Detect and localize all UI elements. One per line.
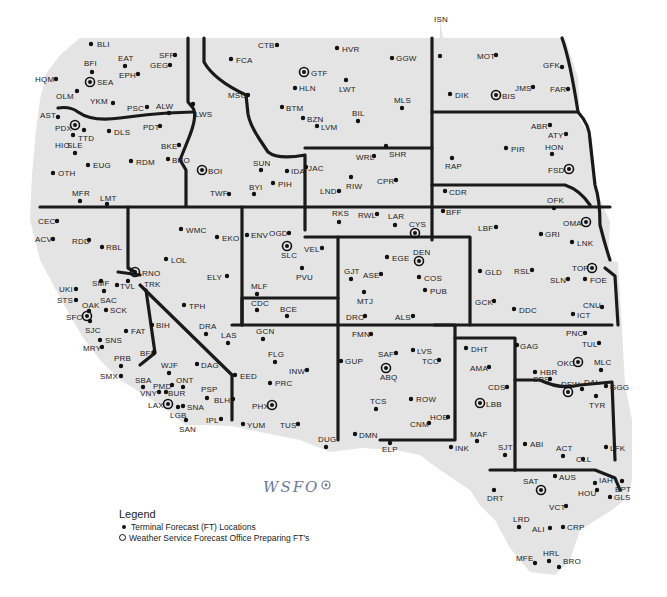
station-label: HVR bbox=[342, 45, 360, 54]
station-dot-icon bbox=[89, 42, 93, 46]
station-label: CYS bbox=[409, 220, 426, 229]
station-label: BNO bbox=[172, 156, 190, 165]
station-label: BUR bbox=[168, 389, 186, 398]
station-dot-icon bbox=[320, 246, 324, 250]
station-dot-icon bbox=[126, 279, 130, 283]
station-label: PUB bbox=[430, 287, 447, 296]
station-dot-icon bbox=[119, 364, 123, 368]
station-label: OTH bbox=[58, 169, 76, 178]
station-label: SBA bbox=[135, 376, 152, 385]
station-label: TPH bbox=[189, 302, 206, 311]
station-label: WMC bbox=[186, 226, 207, 235]
station-label: GFK bbox=[543, 61, 561, 70]
station-label: DRO bbox=[346, 313, 364, 322]
station-label: SJT bbox=[498, 443, 513, 452]
station-label: DEN bbox=[413, 248, 431, 257]
station-dot-icon bbox=[100, 245, 104, 249]
station-dot-icon bbox=[620, 479, 624, 483]
station-label: OLM bbox=[56, 92, 74, 101]
station-label: ABR bbox=[531, 122, 548, 131]
station-label: TUL bbox=[582, 340, 598, 349]
station-dot-icon bbox=[494, 93, 498, 97]
station-label: GUP bbox=[345, 357, 363, 366]
station-label: PSP bbox=[201, 385, 218, 394]
station-label: BRO bbox=[563, 557, 581, 566]
station-dot-icon bbox=[166, 402, 170, 406]
station-label: ACV bbox=[35, 235, 53, 244]
station-label: DUG bbox=[318, 435, 336, 444]
station-label: MSO bbox=[228, 91, 247, 100]
station-label: BFI bbox=[84, 59, 97, 68]
station-label: CNU bbox=[583, 301, 601, 310]
station-dot-icon bbox=[51, 171, 55, 175]
station-label: GAG bbox=[520, 342, 538, 351]
station-label: LBF bbox=[478, 224, 493, 233]
station-label: WJF bbox=[161, 361, 178, 370]
station-label: IDA bbox=[291, 167, 305, 176]
station-dot-icon bbox=[475, 439, 479, 443]
station-label: HON bbox=[545, 143, 563, 152]
station-label: ALI bbox=[532, 525, 545, 534]
station-label: GGW bbox=[396, 54, 417, 63]
station-label: CNM bbox=[410, 420, 429, 429]
station-dot-icon bbox=[225, 274, 229, 278]
station-dot-icon bbox=[300, 266, 304, 270]
station-dot-icon bbox=[285, 244, 289, 248]
station-label: RKS bbox=[332, 209, 349, 218]
station-label: SNS bbox=[105, 336, 122, 345]
station-mot: MOT bbox=[477, 52, 498, 61]
station-label: OKC bbox=[557, 359, 575, 368]
station-dot-icon bbox=[564, 132, 568, 136]
station-label: LVM bbox=[321, 123, 338, 132]
station-dro: DRO bbox=[346, 313, 367, 322]
station-dot-icon bbox=[417, 275, 421, 279]
station-label: CTB bbox=[258, 41, 275, 50]
station-dot-icon bbox=[449, 445, 453, 449]
station-pdt: PDT bbox=[143, 123, 162, 132]
station-dot-icon bbox=[145, 105, 149, 109]
station-label: UKI bbox=[59, 285, 73, 294]
station-label: BLH bbox=[214, 396, 230, 405]
station-label: LGB bbox=[170, 411, 187, 420]
station-dot-icon bbox=[315, 124, 319, 128]
station-rdd: RDD bbox=[72, 237, 91, 246]
station-label: ELY bbox=[207, 273, 223, 282]
station-label: WRL bbox=[356, 153, 375, 162]
station-dot-icon bbox=[517, 525, 521, 529]
station-dot-icon bbox=[423, 288, 427, 292]
station-label: RSL bbox=[514, 267, 531, 276]
station-dot-icon bbox=[150, 323, 154, 327]
station-mry: MRY bbox=[83, 344, 104, 353]
station-dot-icon bbox=[478, 269, 482, 273]
station-dot-icon bbox=[123, 64, 127, 68]
station-dot-icon bbox=[385, 255, 389, 259]
station-dot-icon bbox=[164, 257, 168, 261]
station-label: FLG bbox=[268, 350, 284, 359]
station-label: ISN bbox=[434, 15, 448, 24]
station-label: BCE bbox=[280, 305, 297, 314]
station-dot-icon bbox=[215, 235, 219, 239]
station-dot-icon bbox=[590, 266, 594, 270]
station-dot-icon bbox=[552, 206, 556, 210]
station-label: RDM bbox=[136, 158, 155, 167]
station-dot-icon bbox=[157, 390, 161, 394]
station-dot-icon bbox=[583, 277, 587, 281]
station-dot-icon bbox=[584, 220, 588, 224]
station-label: JMS bbox=[515, 84, 532, 93]
station-dot-icon bbox=[604, 384, 608, 388]
station-dot-icon bbox=[548, 123, 552, 127]
station-dot-icon bbox=[176, 405, 180, 409]
station-dot-icon bbox=[599, 368, 603, 372]
station-label: EPH bbox=[119, 71, 136, 80]
legend-item-ft: Terminal Forecast (FT) Locations bbox=[119, 521, 309, 532]
wsfo-ring-icon bbox=[119, 534, 126, 541]
station-label: HQM bbox=[35, 75, 54, 84]
station-label: CDR bbox=[449, 188, 467, 197]
station-label: BLI bbox=[97, 40, 110, 49]
station-label: LAS bbox=[221, 331, 237, 340]
station-label: ICT bbox=[577, 311, 591, 320]
station-label: YKM bbox=[90, 97, 108, 106]
station-dot-icon bbox=[349, 175, 353, 179]
station-label: PRB bbox=[114, 354, 131, 363]
station-dot-icon bbox=[259, 168, 263, 172]
